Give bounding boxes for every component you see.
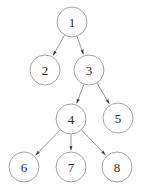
arrowhead-icon <box>81 50 84 55</box>
edge-1-to-3 <box>77 37 83 55</box>
arrowhead-icon <box>53 51 57 56</box>
nodes-layer: 12345678 <box>9 7 133 182</box>
node-label: 6 <box>21 160 28 175</box>
node-label: 1 <box>69 15 76 30</box>
arrowhead-icon <box>70 146 73 151</box>
edge-4-to-6 <box>36 130 61 155</box>
graph-node-8[interactable]: 8 <box>102 152 132 182</box>
edge-line <box>36 130 61 155</box>
node-label: 5 <box>115 111 122 126</box>
arrowhead-icon <box>106 99 110 104</box>
edge-3-to-5 <box>97 83 109 104</box>
graph-node-4[interactable]: 4 <box>56 104 86 134</box>
graph-node-3[interactable]: 3 <box>74 55 104 85</box>
graph-node-7[interactable]: 7 <box>56 152 86 182</box>
graph-node-1[interactable]: 1 <box>57 7 87 37</box>
node-label: 8 <box>114 160 121 175</box>
tree-diagram: 12345678 <box>0 0 142 192</box>
node-label: 7 <box>68 160 75 175</box>
edge-1-to-2 <box>53 36 64 56</box>
graph-node-6[interactable]: 6 <box>9 152 39 182</box>
arrowhead-icon <box>77 99 80 104</box>
edge-4-to-7 <box>70 135 73 151</box>
node-label: 3 <box>86 63 93 78</box>
graph-node-2[interactable]: 2 <box>30 55 60 85</box>
edge-line <box>82 130 106 155</box>
node-label: 4 <box>68 112 75 127</box>
edge-3-to-4 <box>77 85 84 104</box>
graph-node-5[interactable]: 5 <box>103 103 133 133</box>
node-label: 2 <box>42 63 49 78</box>
tree-graph-canvas: 12345678 <box>0 0 142 192</box>
edge-4-to-8 <box>82 130 106 155</box>
edges-layer <box>36 36 110 156</box>
